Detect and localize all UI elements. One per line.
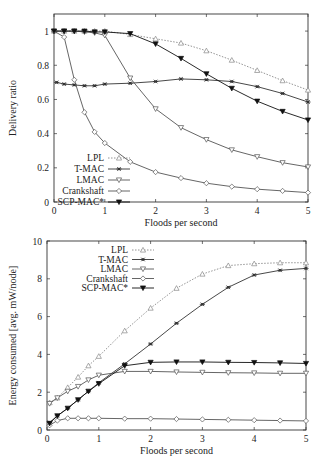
y-tick-label: 0.4	[37, 129, 49, 139]
legend-label: LPL	[111, 245, 128, 255]
data-point-marker	[280, 92, 285, 96]
star-center	[253, 274, 255, 276]
delivery-ratio-chart: 01234500.20.40.60.81Floods per secondDel…	[7, 14, 311, 228]
data-point-marker	[204, 72, 209, 77]
data-point-marker	[252, 273, 257, 277]
y-tick-label: 0	[44, 198, 49, 208]
data-point-marker	[153, 42, 158, 47]
star-center	[73, 84, 75, 86]
data-point-marker	[92, 84, 97, 88]
data-point-marker	[86, 416, 91, 421]
series-line	[54, 31, 308, 167]
data-point-marker	[96, 373, 101, 378]
legend-label: Crankshaft	[62, 186, 104, 196]
x-tick-label: 0	[52, 206, 57, 216]
data-point-marker	[62, 34, 67, 39]
data-point-marker	[65, 416, 70, 421]
data-point-marker	[229, 184, 234, 189]
star-center	[63, 83, 65, 85]
star-center	[175, 322, 177, 324]
star-center	[279, 269, 281, 271]
series-line	[57, 79, 308, 102]
figure: 01234500.20.40.60.81Floods per secondDel…	[0, 0, 323, 469]
x-tick-label: 3	[204, 206, 209, 216]
data-point-marker	[96, 416, 101, 421]
data-point-marker	[226, 417, 231, 422]
data-point-marker	[72, 77, 77, 82]
data-point-marker	[178, 175, 183, 180]
data-point-marker	[200, 417, 205, 422]
y-tick-label: 0.2	[37, 163, 49, 173]
data-point-marker	[122, 328, 127, 333]
x-tick-label: 2	[148, 434, 153, 444]
star-center	[256, 85, 258, 87]
y-tick-label: 4	[37, 350, 42, 360]
data-point-marker	[65, 389, 70, 394]
data-point-marker	[278, 268, 283, 272]
data-point-marker	[252, 418, 257, 423]
data-point-marker	[229, 58, 234, 63]
data-point-marker	[82, 84, 87, 88]
x-tick-label: 3	[200, 434, 205, 444]
data-point-marker	[200, 302, 205, 306]
y-tick-label: 6	[37, 312, 42, 322]
data-point-marker	[303, 418, 308, 423]
data-point-marker	[75, 416, 80, 421]
legend-label: Crankshaft	[86, 274, 128, 284]
y-tick-label: 0	[37, 426, 42, 436]
y-tick-label: 0.6	[37, 95, 49, 105]
data-point-marker	[204, 181, 209, 186]
star-center	[307, 101, 309, 103]
data-point-marker	[178, 77, 183, 81]
star-center	[83, 85, 85, 87]
legend-marker	[140, 276, 145, 281]
data-point-marker	[54, 81, 59, 85]
legend-label: T-MAC	[74, 164, 104, 174]
data-point-marker	[148, 416, 153, 421]
data-point-marker	[278, 260, 283, 265]
star-center	[149, 343, 151, 345]
y-tick-label: 8	[37, 274, 42, 284]
star-center	[118, 168, 120, 170]
x-axis-label: Floods per second	[145, 217, 218, 228]
data-point-marker	[102, 82, 107, 86]
legend-marker	[116, 188, 121, 193]
x-tick-label: 0	[45, 434, 50, 444]
star-center	[93, 85, 95, 87]
star-center	[142, 258, 144, 260]
y-tick-label: 10	[33, 237, 43, 247]
data-point-marker	[174, 286, 179, 291]
star-center	[305, 267, 307, 269]
data-point-marker	[122, 416, 127, 421]
data-point-marker	[86, 363, 91, 368]
data-point-marker	[280, 188, 285, 193]
legend-label: SCP-MAC*	[58, 197, 105, 207]
star-center	[154, 80, 156, 82]
x-tick-label: 1	[102, 206, 107, 216]
legend-marker	[140, 258, 145, 262]
legend-label: T-MAC	[98, 255, 128, 265]
y-tick-label: 1	[44, 27, 49, 37]
data-point-marker	[226, 285, 231, 289]
y-axis-label: Energy consumed [avg. mW/node]	[7, 266, 18, 406]
energy-consumed-chart: 0123450246810Floods per secondEnergy con…	[7, 237, 309, 457]
data-point-marker	[204, 48, 209, 53]
legend-label: SCP-MAC*	[82, 283, 129, 293]
data-point-marker	[255, 85, 260, 89]
legend-label: LMAC	[101, 264, 128, 274]
data-point-marker	[229, 80, 234, 84]
y-tick-label: 0.8	[37, 61, 49, 71]
legend-marker	[116, 167, 121, 171]
series-lmac	[47, 369, 309, 406]
data-point-marker	[226, 263, 231, 268]
data-point-marker	[128, 81, 133, 85]
plot-frame	[47, 241, 306, 430]
data-point-marker	[75, 374, 80, 379]
star-center	[129, 82, 131, 84]
star-center	[205, 79, 207, 81]
data-point-marker	[86, 378, 91, 383]
data-point-marker	[204, 78, 209, 82]
star-center	[180, 78, 182, 80]
star-center	[227, 286, 229, 288]
data-point-marker	[174, 321, 179, 325]
